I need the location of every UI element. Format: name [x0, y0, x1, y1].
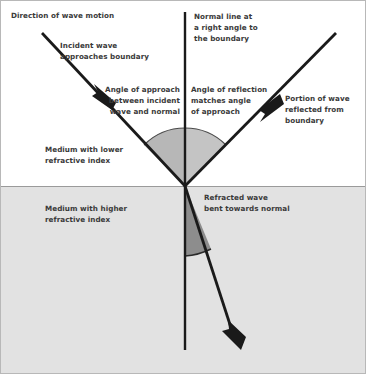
- label-angle-of-reflection: Angle of reflection matches angle of app…: [191, 84, 277, 118]
- label-refracted-wave: Refracted wave bent towards normal: [204, 192, 304, 214]
- label-angle-of-approach: Angle of approach between incident wave …: [104, 84, 180, 118]
- diagram-canvas: Direction of wave motion Incident wave a…: [0, 0, 366, 374]
- label-normal-line: Normal line at a right angle to the boun…: [194, 11, 280, 45]
- label-portion-reflected: Portion of wave reflected from boundary: [285, 93, 365, 127]
- label-incident-wave: Incident wave approaches boundary: [60, 40, 190, 62]
- label-direction-of-wave-motion: Direction of wave motion: [11, 10, 171, 21]
- label-medium-higher-refractive-index: Medium with higher refractive index: [45, 203, 155, 225]
- label-medium-lower-refractive-index: Medium with lower refractive index: [45, 144, 155, 166]
